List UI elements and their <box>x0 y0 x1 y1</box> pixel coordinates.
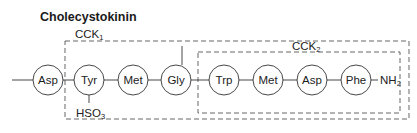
residue-tyr: Tyr <box>74 65 104 95</box>
svg-text:Met: Met <box>123 74 143 86</box>
svg-text:Trp: Trp <box>216 74 233 86</box>
hso3-label: HSO3 <box>76 107 105 121</box>
residue-trp: Trp <box>209 65 239 95</box>
residue-asp-2: Asp <box>297 65 327 95</box>
residue-phe: Phe <box>341 65 371 95</box>
residue-gly: Gly <box>161 65 191 95</box>
svg-text:Asp: Asp <box>302 74 322 86</box>
peptide-diagram: Asp Tyr Met Gly Trp Met Asp Phe CCK1 CCK… <box>0 0 417 133</box>
residue-met-1: Met <box>118 65 148 95</box>
svg-text:Phe: Phe <box>346 74 366 86</box>
svg-text:Asp: Asp <box>38 74 58 86</box>
cck2-label: CCK2 <box>292 40 320 54</box>
svg-text:Tyr: Tyr <box>81 74 97 86</box>
svg-text:Gly: Gly <box>167 74 185 86</box>
svg-text:Met: Met <box>258 74 278 86</box>
residue-asp-1: Asp <box>33 65 63 95</box>
residue-met-2: Met <box>253 65 283 95</box>
nh2-label: NH2 <box>380 74 401 88</box>
cck1-label: CCK1 <box>75 28 103 42</box>
